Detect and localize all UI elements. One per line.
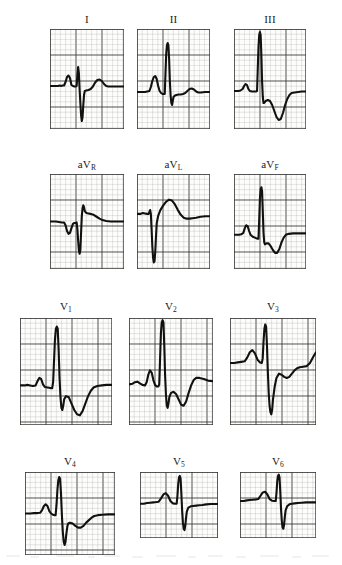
ecg-trace-v6 xyxy=(240,475,316,529)
lead-label-base: aV xyxy=(78,158,91,170)
lead-label-subscript: 5 xyxy=(181,460,185,469)
lead-label-subscript: 4 xyxy=(72,460,76,469)
lead-label-i: I xyxy=(50,13,124,25)
ecg-trace-avr xyxy=(50,205,124,253)
lead-label-base: V xyxy=(165,300,173,312)
lead-label-base: II xyxy=(170,13,178,25)
lead-graph-v6 xyxy=(240,472,316,538)
lead-label-v4: V4 xyxy=(25,455,115,469)
lead-panel-avl: aVL xyxy=(137,158,210,269)
lead-label-base: aV xyxy=(261,158,274,170)
lead-graph-iii xyxy=(234,29,306,129)
lead-graph-avr xyxy=(50,174,124,269)
ecg-figure: IIIIIIaVRaVLaVFV1V2V3V4V5V6 xyxy=(0,0,342,565)
lead-panel-iii: III xyxy=(234,13,306,129)
lead-panel-v6: V6 xyxy=(240,455,316,538)
ecg-grid xyxy=(50,29,124,129)
ecg-grid xyxy=(137,29,210,129)
lead-graph-v2 xyxy=(129,318,213,425)
lead-panel-v3: V3 xyxy=(230,300,316,425)
lead-label-base: V xyxy=(64,455,72,467)
ecg-grid xyxy=(20,318,112,425)
lead-label-subscript: L xyxy=(178,163,183,172)
ecg-grid-border xyxy=(234,29,306,129)
lead-label-iii: III xyxy=(234,13,306,25)
lead-label-base: I xyxy=(85,13,89,25)
ecg-grid xyxy=(129,318,213,425)
lead-panel-v5: V5 xyxy=(140,455,218,538)
lead-label-v5: V5 xyxy=(140,455,218,469)
lead-label-base: V xyxy=(60,300,68,312)
lead-label-base: aV xyxy=(164,158,177,170)
ecg-grid xyxy=(137,174,210,269)
lead-graph-ii xyxy=(137,29,210,129)
lead-label-base: V xyxy=(173,455,181,467)
ecg-trace-v2 xyxy=(129,320,213,408)
ecg-grid xyxy=(234,174,306,269)
ecg-grid-border xyxy=(129,318,213,425)
lead-panel-v4: V4 xyxy=(25,455,115,555)
ecg-grid-border xyxy=(234,174,306,269)
lead-label-subscript: 1 xyxy=(68,305,72,314)
lead-graph-v3 xyxy=(230,318,316,425)
lead-graph-avl xyxy=(137,174,210,269)
lead-graph-v4 xyxy=(25,472,115,555)
lead-label-v6: V6 xyxy=(240,455,316,469)
lead-label-base: V xyxy=(272,455,280,467)
lead-graph-avf xyxy=(234,174,306,269)
lead-panel-avf: aVF xyxy=(234,158,306,269)
lead-label-ii: II xyxy=(137,13,210,25)
lead-graph-v1 xyxy=(20,318,112,425)
lead-label-avf: aVF xyxy=(234,158,306,172)
ecg-trace-v3 xyxy=(230,324,316,414)
lead-graph-i xyxy=(50,29,124,129)
lead-label-subscript: R xyxy=(91,163,96,172)
ecg-trace-i xyxy=(50,67,124,121)
lead-label-base: III xyxy=(264,13,276,25)
lead-label-v3: V3 xyxy=(230,300,316,314)
lead-label-subscript: 3 xyxy=(275,305,279,314)
lead-label-subscript: 2 xyxy=(173,305,177,314)
lead-panel-avr: aVR xyxy=(50,158,124,269)
lead-panel-v2: V2 xyxy=(129,300,213,425)
lead-panel-ii: II xyxy=(137,13,210,129)
lead-label-v1: V1 xyxy=(20,300,112,314)
lead-panel-v1: V1 xyxy=(20,300,112,425)
lead-label-subscript: F xyxy=(274,163,278,172)
lead-label-avl: aVL xyxy=(137,158,210,172)
ecg-trace-avf xyxy=(234,187,306,253)
lead-label-avr: aVR xyxy=(50,158,124,172)
lead-label-base: V xyxy=(267,300,275,312)
lead-graph-v5 xyxy=(140,472,218,538)
ecg-grid-border xyxy=(50,29,124,129)
ecg-trace-v4 xyxy=(25,477,115,545)
lead-label-subscript: 6 xyxy=(280,460,284,469)
ecg-grid xyxy=(234,29,306,129)
lead-label-v2: V2 xyxy=(129,300,213,314)
lead-panel-i: I xyxy=(50,13,124,129)
